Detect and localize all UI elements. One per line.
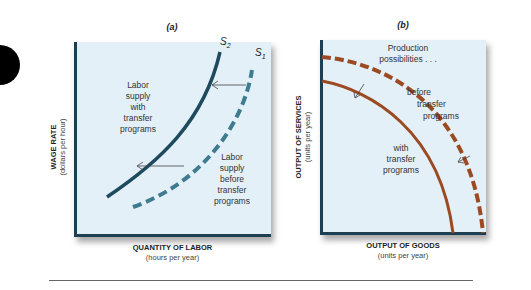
bullet-marker — [0, 45, 20, 85]
note-production-possibilities: Productionpossibilities . . . — [368, 43, 448, 65]
panel-b-xlabel: OUTPUT OF GOODS — [320, 241, 486, 250]
panel-b-y-axis-label: OUTPUT OF SERVICES (units per year) — [294, 82, 312, 192]
s1-label: S1 — [255, 47, 266, 60]
panel-b-ylabel: OUTPUT OF SERVICES — [294, 82, 303, 192]
panel-b-title: (b) — [383, 20, 423, 30]
panel-b-plot: Productionpossibilities . . . beforetran… — [320, 40, 486, 235]
panel-a-y-axis-label: WAGE RATE (dollars per hour) — [49, 97, 67, 197]
panel-a-chart — [74, 42, 271, 237]
panel-b-chart — [320, 40, 486, 235]
panel-a-ylabel-units: (dollars per hour) — [58, 97, 67, 197]
panel-a-xlabel-units: (hours per year) — [74, 253, 271, 262]
note-with-transfer: Laborsupplywithtransferprograms — [108, 80, 168, 135]
panel-a-plot: S2 S1 Laborsupplywithtransferprograms La… — [74, 42, 271, 237]
panel-b-ylabel-units: (units per year) — [303, 82, 312, 192]
s2-label: S2 — [220, 36, 231, 49]
panel-a-title: (a) — [152, 22, 192, 32]
note-before-transfer: Laborsupplybeforetransferprograms — [202, 152, 262, 207]
panel-a-ylabel: WAGE RATE — [49, 97, 58, 197]
panel-a-xlabel: QUANTITY OF LABOR — [74, 243, 271, 252]
panel-b-xlabel-units: (units per year) — [320, 251, 486, 260]
note-before-transfer: beforetransferprograms — [405, 86, 455, 122]
note-with-transfer: withtransferprograms — [376, 143, 426, 176]
bottom-divider — [49, 280, 473, 281]
